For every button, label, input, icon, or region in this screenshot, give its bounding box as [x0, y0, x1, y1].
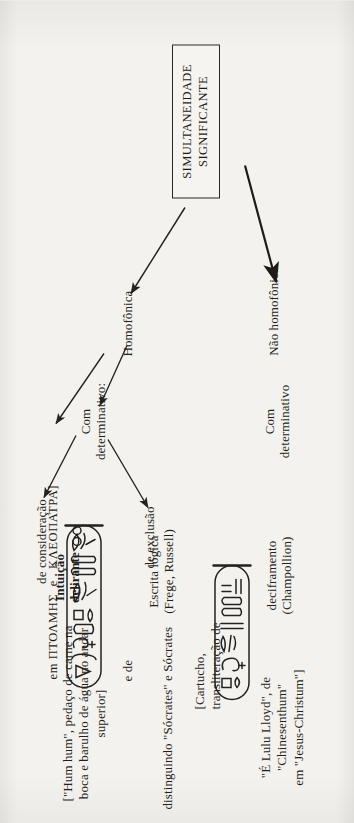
- cartouche-ptolemy-hieroglyphs: [210, 557, 254, 703]
- example-greek-transliteration: em ΠΤΟΛΜΗΣ e ΚΛΕΟΠΑΤΡΑ]: [46, 484, 61, 679]
- node-nao-homofonica: Não homofônica: [266, 251, 281, 371]
- node-homofonica: Homofônica: [120, 275, 135, 371]
- example-lulu-lloyd: "É Lulu Lloyd", de "Chinesenthum" em "Je…: [258, 637, 307, 817]
- node-com-determinativo-nao-homofonica: Com determinativo: [262, 371, 293, 471]
- figure-canvas: SIMULTANEIDADE SIGNIFICANTE Homofônica N…: [0, 0, 354, 823]
- node-com-determinativo-homofonica: Com determinativo:: [78, 371, 109, 471]
- root-node-simultaneidade-significante: SIMULTANEIDADE SIGNIFICANTE: [172, 44, 220, 198]
- example-e-de: e de: [120, 647, 135, 681]
- edge-root-to-homofonica: [131, 207, 185, 293]
- node-deciframento-champollion: deciframento (Champollion): [264, 517, 295, 633]
- example-socrates: distinguindo "Sócrates" e Sócrates: [160, 609, 175, 809]
- cartouche-cleopatra-hieroglyphs: [62, 519, 106, 691]
